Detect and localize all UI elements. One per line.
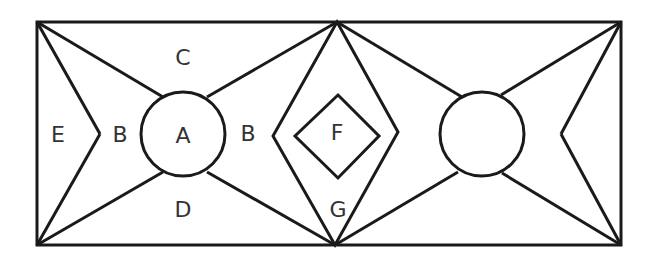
left-upper-spoke-left xyxy=(37,22,163,97)
right-circle xyxy=(440,92,524,176)
left-notch-upper-line xyxy=(37,22,100,134)
region-diagram: A B B C D E F G xyxy=(0,0,648,268)
label-e: E xyxy=(51,122,65,147)
left-lower-spoke-left xyxy=(37,172,163,245)
label-a: A xyxy=(175,123,190,148)
label-b-right: B xyxy=(240,121,255,146)
label-g: G xyxy=(329,197,346,222)
right-lower-spoke-left xyxy=(335,172,458,245)
label-b-left: B xyxy=(112,122,127,147)
label-f: F xyxy=(331,120,344,145)
label-d: D xyxy=(175,197,192,222)
label-c: C xyxy=(175,45,190,70)
right-upper-spoke-left xyxy=(337,22,462,97)
